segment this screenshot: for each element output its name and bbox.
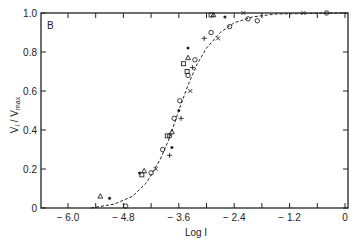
data-point — [209, 30, 213, 34]
fit-curve — [91, 13, 345, 208]
x-tick-label: − 1.2 — [278, 212, 301, 223]
chart-svg: 00.20.40.60.81.0− 6.0− 4.8− 3.6− 2.4− 1.… — [0, 0, 360, 250]
x-axis-label: Log I — [185, 227, 207, 238]
data-point — [187, 47, 190, 50]
data-point — [188, 89, 192, 93]
panel-label: B — [47, 20, 54, 31]
data-point — [181, 62, 185, 66]
data-point — [172, 116, 176, 120]
data-point — [186, 55, 191, 59]
y-tick-label: 0 — [31, 203, 37, 214]
plot-border — [41, 13, 348, 208]
data-point — [177, 109, 180, 112]
y-tick-label: 0.8 — [23, 47, 37, 58]
x-tick-label: − 3.6 — [168, 212, 191, 223]
data-point — [142, 168, 147, 172]
data-point — [202, 36, 207, 41]
svg-text:Vi / Vmax: Vi / Vmax — [9, 96, 21, 133]
x-tick-label: − 4.8 — [112, 212, 135, 223]
data-point — [193, 58, 197, 62]
data-point — [138, 171, 141, 174]
x-tick-label: − 2.4 — [223, 212, 246, 223]
y-tick-label: 1.0 — [23, 8, 37, 19]
data-point — [108, 197, 111, 200]
chart: 00.20.40.60.81.0− 6.0− 4.8− 3.6− 2.4− 1.… — [0, 0, 360, 250]
y-tick-label: 0.6 — [23, 86, 37, 97]
data-point — [167, 153, 172, 158]
y-tick-label: 0.2 — [23, 164, 37, 175]
data-point — [98, 194, 103, 198]
data-point — [170, 146, 173, 149]
x-tick-label: − 6.0 — [57, 212, 80, 223]
plot-frame — [41, 13, 348, 208]
y-axis-label: Vi / Vmax — [9, 96, 21, 133]
axis-ticks: 00.20.40.60.81.0− 6.0− 4.8− 3.6− 2.4− 1.… — [23, 8, 348, 224]
data-point — [216, 36, 220, 40]
x-tick-label: 0 — [342, 212, 348, 223]
data-point — [223, 15, 226, 18]
y-tick-label: 0.4 — [23, 125, 37, 136]
data-point — [178, 99, 182, 103]
data-point — [255, 19, 259, 23]
data-point — [179, 116, 184, 121]
